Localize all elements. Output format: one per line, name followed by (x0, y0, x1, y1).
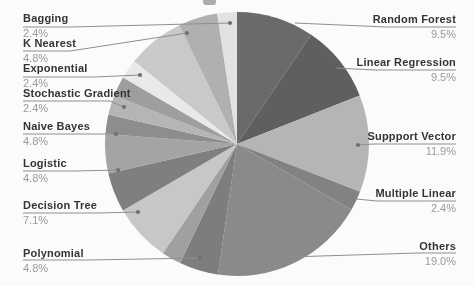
slice-percent: 7.1% (23, 215, 48, 226)
slice-label: Stochastic Gradient (23, 88, 131, 99)
slice-label: Random Forest (373, 14, 456, 25)
slice-percent: 9.5% (431, 72, 456, 83)
slice-percent: 2.4% (431, 203, 456, 214)
slice-label: K Nearest (23, 38, 76, 49)
slice-percent: 11.9% (426, 146, 456, 157)
labels-layer: Random Forest9.5%Linear Regression9.5%Su… (0, 0, 475, 286)
slice-percent: 2.4% (23, 103, 48, 114)
scan-artifact (203, 0, 216, 5)
slice-label: Logistic (23, 158, 67, 169)
slice-label: Polynomial (23, 248, 84, 259)
slice-percent: 2.4% (23, 78, 48, 89)
slice-percent: 4.8% (23, 53, 48, 64)
pie-chart-figure: Random Forest9.5%Linear Regression9.5%Su… (0, 0, 475, 286)
slice-percent: 19.0% (425, 256, 456, 267)
slice-label: Exponential (23, 63, 88, 74)
slice-percent: 9.5% (431, 29, 456, 40)
slice-percent: 4.8% (23, 173, 48, 184)
slice-label: Naive Bayes (23, 121, 90, 132)
slice-label: Decision Tree (23, 200, 97, 211)
slice-label: Bagging (23, 13, 68, 24)
slice-label: Linear Regression (357, 57, 456, 68)
slice-percent: 2.4% (23, 28, 48, 39)
slice-label: Others (419, 241, 456, 252)
slice-percent: 4.8% (23, 263, 48, 274)
slice-label: Multiple Linear (375, 188, 456, 199)
slice-label: Suppport Vector (367, 131, 456, 142)
slice-percent: 4.8% (23, 136, 48, 147)
